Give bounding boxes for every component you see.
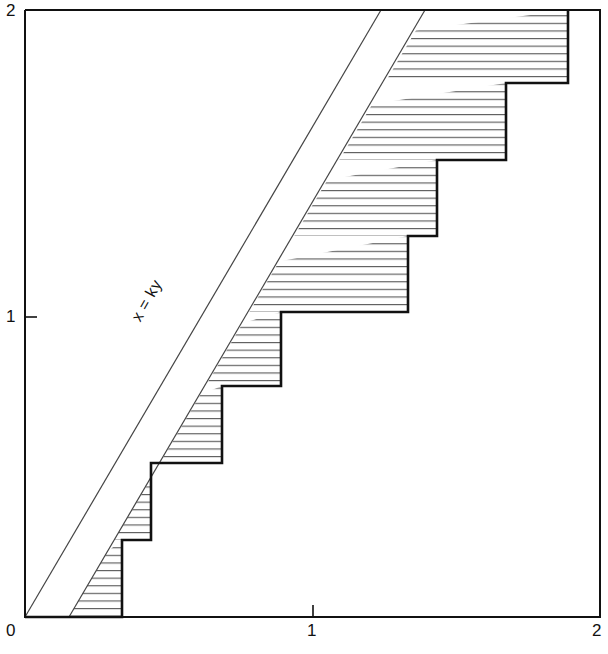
hatched-region bbox=[25, 10, 568, 83]
hatched-region-group bbox=[25, 10, 568, 617]
x-axis-tick-label-1: 1 bbox=[307, 622, 316, 639]
y-axis-tick-label-1: 1 bbox=[6, 308, 15, 325]
hatched-region bbox=[25, 160, 437, 236]
hatch-boundary-line bbox=[69, 10, 425, 617]
plot-canvas bbox=[0, 0, 608, 654]
line-x-equals-ky bbox=[25, 10, 381, 617]
y-axis-tick-label-0: 0 bbox=[6, 622, 15, 639]
y-axis-tick-label-2: 2 bbox=[6, 2, 15, 19]
hatched-region bbox=[25, 463, 151, 540]
plot-frame bbox=[25, 10, 600, 617]
hatched-region bbox=[25, 386, 222, 463]
hatched-region bbox=[25, 236, 408, 312]
chart-figure: 2 1 0 1 2 x = ky bbox=[0, 0, 608, 654]
hatched-region bbox=[25, 83, 506, 160]
x-axis-tick-label-2: 2 bbox=[592, 622, 601, 639]
hatched-region bbox=[25, 312, 281, 386]
